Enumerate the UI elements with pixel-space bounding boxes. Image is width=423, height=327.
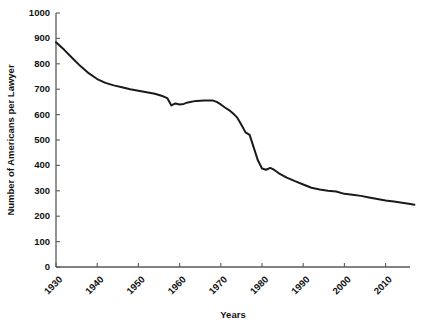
data-series-group: [56, 42, 414, 205]
x-axis-tick-label: 1990: [289, 274, 312, 297]
y-axis-tick-label: 700: [34, 83, 50, 94]
x-axis-tick-label: 1980: [248, 274, 271, 297]
x-axis-tick-label: 1940: [83, 274, 106, 297]
x-axis-tick-label: 1930: [42, 274, 65, 297]
y-axis-tick-label: 600: [34, 109, 50, 120]
x-axis-title: Years: [220, 309, 245, 320]
x-axis-tick-labels: 193019401950196019701980199020002010: [42, 274, 394, 297]
y-axis-tick-label: 800: [34, 58, 50, 69]
y-axis-tick-label: 300: [34, 185, 50, 196]
x-axis-tick-label: 1970: [206, 274, 229, 297]
x-axis-tick-label: 2000: [330, 274, 353, 297]
y-axis-title: Number of Americans per Lawyer: [5, 64, 16, 215]
x-axis-tick-label: 1950: [124, 274, 147, 297]
y-axis-tick-label: 1000: [29, 7, 50, 18]
x-axis-tick-label: 2010: [371, 274, 394, 297]
y-axis-tick-label: 100: [34, 236, 50, 247]
y-axis-tick-label: 200: [34, 210, 50, 221]
chart-container: 01002003004005006007008009001000 1930194…: [0, 0, 423, 327]
y-axis-tick-label: 400: [34, 159, 50, 170]
y-axis: 01002003004005006007008009001000: [29, 7, 60, 272]
line-chart: 01002003004005006007008009001000 1930194…: [0, 0, 423, 327]
y-axis-tick-label: 0: [45, 261, 50, 272]
x-axis: 193019401950196019701980199020002010: [42, 263, 410, 296]
data-line-americans-per-lawyer: [56, 42, 414, 205]
x-axis-tick-label: 1960: [165, 274, 188, 297]
y-axis-tick-label: 500: [34, 134, 50, 145]
y-axis-tick-labels: 01002003004005006007008009001000: [29, 7, 50, 272]
y-axis-tick-label: 900: [34, 32, 50, 43]
